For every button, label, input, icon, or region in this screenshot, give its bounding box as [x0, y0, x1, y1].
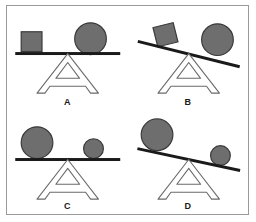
panel-c-illustration: [7, 110, 128, 214]
panel-c: C: [7, 110, 128, 214]
panel-label-c: C: [7, 201, 128, 211]
panel-b: B: [128, 6, 249, 110]
square-weight: [152, 23, 177, 47]
panel-label-a: A: [7, 97, 128, 107]
figure-frame: A B: [6, 5, 249, 215]
fulcrum-stand: [37, 54, 98, 94]
circle-weight-large: [141, 119, 173, 151]
panel-label-d: D: [128, 201, 249, 211]
circle-weight-large: [75, 23, 107, 55]
panel-grid: A B: [7, 6, 248, 214]
panel-d-illustration: [128, 110, 249, 214]
panel-a-illustration: [7, 6, 128, 110]
panel-a: A: [7, 6, 128, 110]
panel-d: D: [128, 110, 249, 214]
panel-b-illustration: [128, 6, 249, 110]
square-weight: [21, 32, 42, 52]
circle-weight-large: [21, 127, 53, 159]
panel-label-b: B: [128, 97, 249, 107]
circle-weight-small: [210, 146, 230, 166]
circle-weight-small: [84, 139, 104, 159]
circle-weight-large: [201, 24, 233, 56]
fulcrum-stand: [37, 160, 98, 200]
